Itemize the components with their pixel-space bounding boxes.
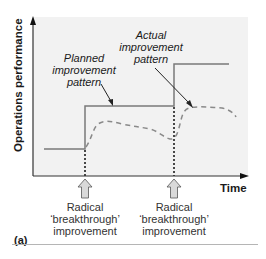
event-label-1-line-2: ‘breakthrough’ [45,213,125,225]
planned-annotation-line-2: improvement [44,64,124,76]
event-label-2-line-3: improvement [134,225,214,237]
event-label-2-line-1: Radical [134,201,214,213]
bottom-divider [12,244,258,245]
up-arrow-icon-2 [167,179,181,198]
up-arrow-icon-1 [78,179,92,198]
planned-annotation-line-3: pattern [44,76,124,88]
actual-annotation: Actual improvement pattern [110,29,192,65]
actual-annotation-line-1: Actual [110,29,192,41]
event-label-1: Radical ‘breakthrough’ improvement [45,201,125,237]
event-label-1-line-1: Radical [45,201,125,213]
x-axis-label: Time [220,182,247,194]
event-label-2-line-2: ‘breakthrough’ [134,213,214,225]
event-label-1-line-3: improvement [45,225,125,237]
y-axis-label: Operations performance [12,18,24,152]
actual-annotation-line-3: pattern [110,53,192,65]
event-label-2: Radical ‘breakthrough’ improvement [134,201,214,237]
actual-annotation-line-2: improvement [110,41,192,53]
